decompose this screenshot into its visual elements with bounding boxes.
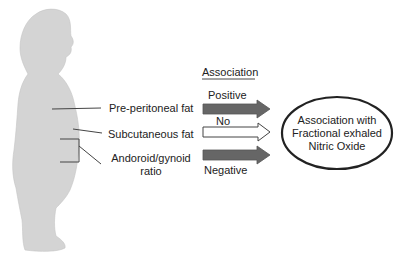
label-pre-peritoneal-fat: Pre-peritoneal fat — [109, 102, 193, 115]
outcome-line2: Fractional exhaled — [284, 127, 390, 140]
negative-arrow — [203, 146, 270, 164]
label-no: No — [216, 115, 230, 128]
outcome-text: Association with Fractional exhaled Nitr… — [284, 114, 390, 153]
child-silhouette — [13, 9, 80, 251]
label-android-gynoid-line1: Andoroid/gynoid — [108, 152, 194, 165]
no-association-arrow — [203, 123, 270, 141]
outcome-line3: Nitric Oxide — [284, 140, 390, 153]
android-gynoid-leader — [79, 146, 101, 164]
label-subcutaneous-fat: Subcutaneous fat — [108, 128, 194, 141]
label-android-gynoid-ratio: Andoroid/gynoid ratio — [108, 152, 194, 178]
positive-arrow — [203, 100, 270, 118]
outcome-line1: Association with — [284, 114, 390, 127]
label-android-gynoid-line2: ratio — [108, 165, 194, 178]
association-header: Association — [202, 66, 258, 79]
label-negative: Negative — [204, 164, 247, 177]
label-positive: Positive — [208, 89, 247, 102]
